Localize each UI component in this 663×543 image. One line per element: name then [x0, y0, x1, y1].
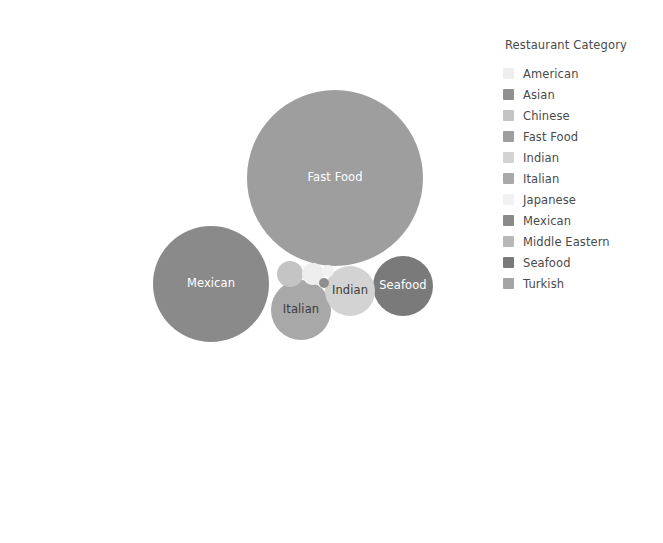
legend-swatch-icon — [503, 152, 514, 163]
legend-item-chinese[interactable]: Chinese — [503, 105, 663, 126]
legend-item-label: Mexican — [523, 214, 571, 228]
legend-item-label: American — [523, 67, 579, 81]
bubble-label-middle-eastern: Middle Eastern — [112, 134, 199, 146]
legend-item-label: Seafood — [523, 256, 571, 270]
legend-item-middle-eastern[interactable]: Middle Eastern — [503, 231, 663, 252]
legend-swatch-icon — [503, 89, 514, 100]
legend-item-label: Italian — [523, 172, 559, 186]
legend-swatch-icon — [503, 215, 514, 226]
legend-swatch-icon — [503, 194, 514, 205]
legend-item-american[interactable]: American — [503, 63, 663, 84]
bubble-middle-eastern[interactable]: Middle Eastern — [53, 38, 257, 242]
legend: Restaurant Category AmericanAsianChinese… — [503, 38, 663, 294]
legend-item-label: Chinese — [523, 109, 570, 123]
bubble-label-indian: Indian — [332, 285, 368, 297]
legend-swatch-icon — [503, 131, 514, 142]
legend-swatch-icon — [503, 278, 514, 289]
legend-title: Restaurant Category — [505, 38, 663, 52]
legend-swatch-icon — [503, 236, 514, 247]
legend-item-indian[interactable]: Indian — [503, 147, 663, 168]
bubble-fast-food[interactable]: Fast Food — [247, 90, 423, 266]
legend-item-asian[interactable]: Asian — [503, 84, 663, 105]
legend-swatch-icon — [503, 110, 514, 121]
bubble-japanese[interactable] — [322, 265, 334, 277]
legend-item-label: Turkish — [523, 277, 564, 291]
legend-item-mexican[interactable]: Mexican — [503, 210, 663, 231]
bubble-seafood[interactable]: Seafood — [373, 256, 433, 316]
legend-item-label: Asian — [523, 88, 555, 102]
bubble-label-seafood: Seafood — [379, 280, 427, 292]
bubble-plot-area: Middle EasternFast FoodTurkishMexicanSea… — [0, 0, 500, 543]
legend-swatch-icon — [503, 257, 514, 268]
legend-swatch-icon — [503, 173, 514, 184]
legend-item-fast-food[interactable]: Fast Food — [503, 126, 663, 147]
bubble-label-italian: Italian — [283, 304, 319, 316]
bubble-label-turkish: Turkish — [364, 409, 405, 421]
legend-item-label: Indian — [523, 151, 559, 165]
bubble-turkish[interactable]: Turkish — [282, 312, 488, 518]
bubble-chinese[interactable] — [277, 261, 303, 287]
bubble-italian[interactable]: Italian — [271, 280, 331, 340]
bubble-label-fast-food: Fast Food — [307, 172, 362, 184]
legend-item-turkish[interactable]: Turkish — [503, 273, 663, 294]
legend-swatch-icon — [503, 68, 514, 79]
legend-item-seafood[interactable]: Seafood — [503, 252, 663, 273]
legend-item-label: Japanese — [523, 193, 576, 207]
legend-items: AmericanAsianChineseFast FoodIndianItali… — [503, 63, 663, 294]
bubble-mexican[interactable]: Mexican — [153, 226, 269, 342]
bubble-label-mexican: Mexican — [187, 278, 235, 290]
legend-item-label: Fast Food — [523, 130, 578, 144]
legend-item-japanese[interactable]: Japanese — [503, 189, 663, 210]
bubble-asian[interactable] — [319, 278, 329, 288]
bubble-chart-page: Middle EasternFast FoodTurkishMexicanSea… — [0, 0, 663, 543]
legend-item-label: Middle Eastern — [523, 235, 610, 249]
legend-item-italian[interactable]: Italian — [503, 168, 663, 189]
